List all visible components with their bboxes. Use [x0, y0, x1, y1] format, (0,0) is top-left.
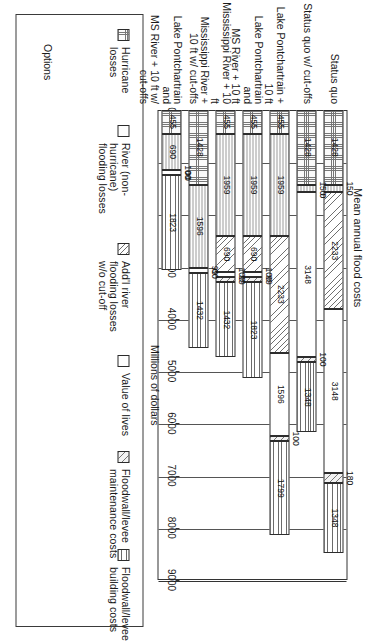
- bar-segment-value-label: 1432: [194, 301, 203, 320]
- bar-group: 1428150031481001348: [296, 110, 316, 580]
- y-axis-category-label: Status quo: [328, 2, 340, 104]
- x-axis-label: Millions of dollars: [148, 345, 160, 426]
- chart-legend: Hurricane losses River (non-hurricane) f…: [15, 14, 143, 627]
- bar-group: 4551959690100991432: [215, 110, 235, 580]
- x-gridline: [158, 581, 346, 582]
- bar-segment-value-label: 100: [317, 352, 326, 366]
- bar-segment-value-label: 455: [248, 115, 257, 129]
- legend-label-addl-river-flooding-losses: Add'l river flooding losses w/o cut-off: [96, 261, 131, 332]
- bar-segment-value-label: 150: [344, 181, 353, 195]
- y-axis-category-label: Mississippi River + 10 ft: [208, 2, 231, 104]
- legend-item-building-costs: Floodwall/levee building costs: [107, 549, 130, 639]
- y-axis-category-label: Lake Pontchartrain and MS River + 10 ft: [229, 2, 264, 104]
- bar-segment-value-label: 1799: [275, 479, 284, 498]
- legend-label-value-of-lives: Value of lives: [119, 373, 131, 436]
- bar-segment[interactable]: [323, 473, 343, 482]
- bar-segment-value-label: 1428: [302, 138, 311, 157]
- legend-label-maintenance-costs: Floodwall/levee maintenance costs: [107, 469, 130, 558]
- bar-segment-value-label: 1348: [302, 388, 311, 407]
- legend-item-maintenance-costs: Floodwall/levee maintenance costs: [107, 451, 130, 561]
- y-axis-category-label: Mississippi River + 10 ft w/ cut-offs: [186, 2, 209, 104]
- bar-segment-value-label: 99: [236, 275, 245, 284]
- y-axis-category-label: Lake Pontchartrain and MS River + 10 ft …: [136, 2, 182, 104]
- legend-label-hurricane-losses: Hurricane losses: [107, 47, 130, 119]
- bar-segment[interactable]: [296, 185, 316, 193]
- addl-river-swatch-icon: [117, 243, 129, 255]
- hurricane-swatch-icon: [117, 29, 129, 41]
- bar-segment-value-label: 455: [275, 115, 284, 129]
- flood-cost-figure: Hurricane losses River (non-hurricane) f…: [0, 0, 369, 642]
- building-swatch-icon: [117, 549, 129, 561]
- bar-segment-value-label: 1823: [248, 321, 257, 340]
- legend-label-building-costs: Floodwall/levee building costs: [107, 567, 130, 641]
- bar-segment-value-label: 2233: [329, 241, 338, 260]
- bar-segment-value-label: 1348: [329, 509, 338, 528]
- bar-segment-value-label: 1959: [221, 175, 230, 194]
- bar-segment-value-label: 3148: [329, 382, 338, 401]
- river-swatch-icon: [117, 125, 129, 137]
- bar-segment-value-label: 1596: [275, 385, 284, 404]
- y-axis-category-label: Status quo w/ cut-offs: [301, 2, 313, 104]
- bar-segment-value-label: 0: [209, 274, 218, 279]
- value-of-lives-swatch-icon: [117, 355, 129, 367]
- bar-segment-value-label: 1959: [248, 175, 257, 194]
- legend-item-value-of-lives: Value of lives: [117, 355, 130, 447]
- bar-segment-value-label: 0: [317, 193, 326, 198]
- bar-segment-value-label: 0: [182, 176, 191, 181]
- bar-segment-value-label: 1432: [221, 310, 230, 329]
- y-axis-category-label: Lake Pontchartrain + 10 ft: [262, 2, 285, 104]
- bar-group: 455690010001823: [161, 110, 181, 580]
- legend-item-hurricane-losses: Hurricane losses: [107, 29, 130, 119]
- legend-label-river-flooding-losses: River (non-hurricane) flooding losses: [96, 143, 131, 235]
- maintenance-swatch-icon: [117, 451, 129, 463]
- chart-title: Mean annual flood costs: [351, 188, 363, 307]
- bar-segment-value-label: 690: [167, 145, 176, 159]
- y-axis-label: Options: [41, 44, 53, 80]
- bar-segment-value-label: 3148: [302, 265, 311, 284]
- bar-segment-value-label: 690: [221, 247, 230, 261]
- bar-segment-value-label: 2233: [275, 285, 284, 304]
- bar-segment-value-label: 1596: [194, 217, 203, 236]
- legend-item-river-flooding-losses: River (non-hurricane) flooding losses: [96, 125, 131, 235]
- bar-segment-value-label: 99: [263, 275, 272, 284]
- bar-segment-value-label: 1959: [275, 175, 284, 194]
- bar-group: 4551959223315961001799: [269, 110, 289, 580]
- bar-segment-value-label: 1428: [329, 138, 338, 157]
- bar-segment-value-label: 100: [290, 432, 299, 446]
- bar-segment-value-label: 455: [221, 115, 230, 129]
- figure-rotation-wrapper: Hurricane losses River (non-hurricane) f…: [0, 0, 369, 642]
- bar-segment-value-label: 180: [344, 471, 353, 485]
- bar-segment-value-label: 455: [167, 115, 176, 129]
- bar-segment-value-label: 690: [248, 247, 257, 261]
- bar-segment-value-label: 1823: [167, 213, 176, 232]
- bar-segment-value-label: 1428: [194, 138, 203, 157]
- bar-group: 4551959690100991823: [242, 110, 262, 580]
- legend-item-addl-river-flooding-losses: Add'l river flooding losses w/o cut-off: [96, 243, 131, 343]
